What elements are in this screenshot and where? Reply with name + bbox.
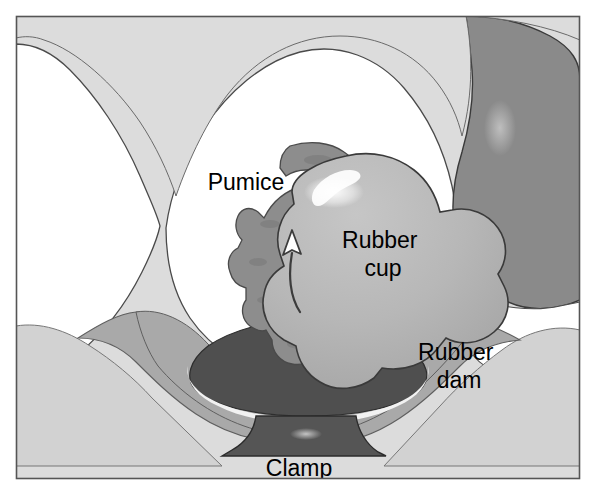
illustration-body: Pumice Rubber cup Rubber dam Clamp — [16, 16, 580, 481]
rubber-cup-glow — [304, 176, 364, 208]
tooth-right-highlight — [484, 100, 516, 156]
dental-illustration-svg: Pumice Rubber cup Rubber dam Clamp — [0, 0, 596, 495]
label-pumice: Pumice — [208, 169, 285, 195]
label-rubber-cup-line1: Rubber — [342, 227, 418, 253]
illustration-figure: Pumice Rubber cup Rubber dam Clamp — [0, 0, 596, 495]
label-rubber-cup-line2: cup — [364, 255, 401, 281]
label-clamp: Clamp — [266, 455, 332, 481]
label-rubber-dam-line2: dam — [437, 367, 482, 393]
label-rubber-dam-line1: Rubber — [418, 339, 494, 365]
clamp-highlight — [290, 428, 322, 440]
